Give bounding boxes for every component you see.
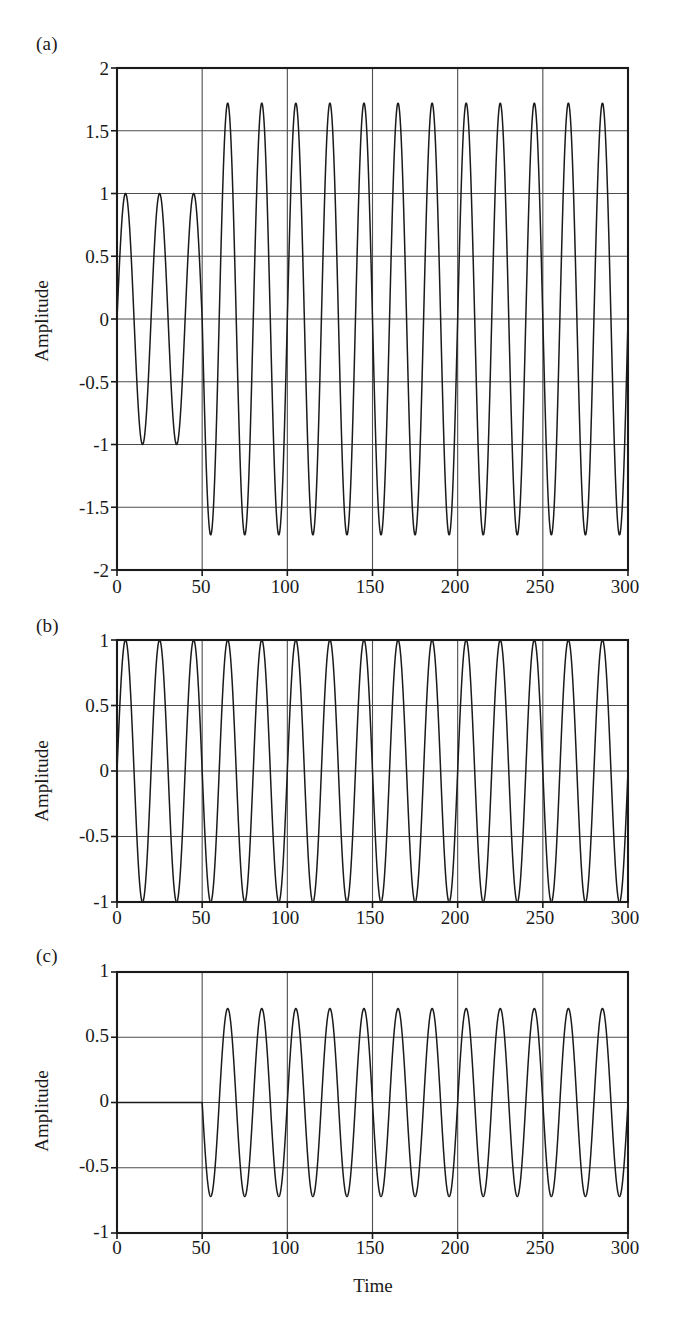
panel-b: (b) Amplitude 1 0.5 0 -0.5 -1 0 50 100 1…	[0, 610, 674, 940]
panel-c: (c) Amplitude 1 0.5 0 -0.5 -1 0 50 100 1…	[0, 940, 674, 1324]
panel-a-plot	[0, 0, 674, 610]
panel-c-plot	[0, 940, 674, 1324]
panel-b-plot	[0, 610, 674, 940]
figure-container: (a) Amplitude 2 1.5 1 0.5 0 -0.5 -1 -1.5…	[0, 0, 674, 1324]
panel-a: (a) Amplitude 2 1.5 1 0.5 0 -0.5 -1 -1.5…	[0, 0, 674, 610]
